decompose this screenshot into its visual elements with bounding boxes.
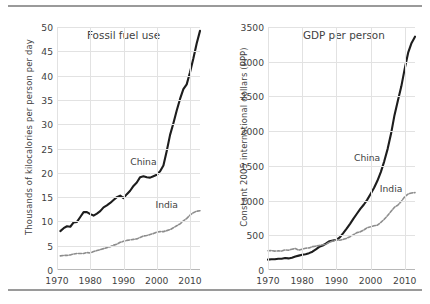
panel-fossil-fuel-use: Thousands of kilocalories per person per… (0, 0, 215, 304)
series-annotation-china: China (130, 156, 156, 167)
y-axis-tick-label: 20 (41, 167, 53, 178)
gridline-horizontal (268, 131, 415, 132)
gridline-horizontal (57, 100, 200, 101)
gridline-vertical (124, 27, 125, 270)
gridline-horizontal (268, 235, 415, 236)
series-line-india (60, 211, 200, 256)
series-annotation-china: China (354, 152, 380, 163)
x-axis-tick-label: 1970 (256, 275, 279, 286)
y-axis-tick-label: 5 (47, 240, 53, 251)
gridline-horizontal (268, 166, 415, 167)
x-axis-tick-label: 1970 (45, 275, 68, 286)
y-axis-tick-label: 1500 (241, 160, 264, 171)
y-axis-label-right: Constant 2005 international dollars (PPP… (239, 12, 249, 262)
y-axis-tick-label: 10 (41, 216, 53, 227)
series-annotation-india: India (155, 199, 178, 210)
gridline-vertical (157, 27, 158, 270)
y-axis-tick-label: 35 (41, 94, 53, 105)
series-lines-right (268, 27, 415, 270)
x-axis-tick-label: 2000 (359, 275, 382, 286)
gridline-vertical (405, 27, 406, 270)
figure-root: Thousands of kilocalories per person per… (0, 0, 430, 304)
gridline-horizontal (57, 173, 200, 174)
x-axis-tick-label: 2000 (145, 275, 168, 286)
y-axis-tick-label: 0 (47, 265, 53, 276)
y-axis-tick-label: 50 (41, 22, 53, 33)
x-axis-tick-label: 2010 (393, 275, 416, 286)
gridline-horizontal (268, 62, 415, 63)
gridline-horizontal (268, 96, 415, 97)
y-axis-tick-label: 0 (258, 265, 264, 276)
gridline-horizontal (57, 197, 200, 198)
y-axis-tick-label: 3500 (241, 22, 264, 33)
y-axis-tick-label: 2500 (241, 91, 264, 102)
x-axis-tick-label: 1990 (325, 275, 348, 286)
gridline-horizontal (57, 124, 200, 125)
x-axis-tick-label: 1980 (290, 275, 313, 286)
y-axis-tick-label: 3000 (241, 56, 264, 67)
gridline-vertical (57, 27, 58, 270)
gridline-vertical (90, 27, 91, 270)
y-axis-tick-label: 2000 (241, 126, 264, 137)
x-axis-tick-label: 1990 (112, 275, 135, 286)
gridline-vertical (336, 27, 337, 270)
series-line-china (60, 31, 200, 231)
gridline-vertical (371, 27, 372, 270)
gridline-horizontal (268, 27, 415, 28)
y-axis-tick-label: 45 (41, 46, 53, 57)
gridline-horizontal (57, 76, 200, 77)
y-axis-tick-label: 1000 (241, 195, 264, 206)
gridline-horizontal (57, 27, 200, 28)
y-axis-tick-label: 25 (41, 143, 53, 154)
gridline-vertical (268, 27, 269, 270)
y-axis-tick-label: 40 (41, 70, 53, 81)
y-axis-tick-label: 30 (41, 119, 53, 130)
gridline-horizontal (57, 51, 200, 52)
series-line-china (268, 37, 415, 260)
panel-gdp-per-person: Constant 2005 international dollars (PPP… (215, 0, 430, 304)
plot-area-right: GDP per person 0500100015002000250030003… (268, 27, 415, 270)
gridline-horizontal (57, 221, 200, 222)
gridline-vertical (190, 27, 191, 270)
x-axis-tick-label: 2010 (178, 275, 201, 286)
gridline-horizontal (57, 149, 200, 150)
series-annotation-india: India (380, 183, 403, 194)
x-axis-tick-label: 1980 (79, 275, 102, 286)
y-axis-tick-label: 15 (41, 192, 53, 203)
gridline-horizontal (57, 246, 200, 247)
gridline-horizontal (268, 201, 415, 202)
gridline-vertical (302, 27, 303, 270)
plot-area-left: Fossil fuel use 051015202530354045501970… (57, 27, 200, 270)
y-axis-tick-label: 500 (246, 230, 264, 241)
y-axis-label-left: Thousands of kilocalories per person per… (24, 12, 34, 262)
